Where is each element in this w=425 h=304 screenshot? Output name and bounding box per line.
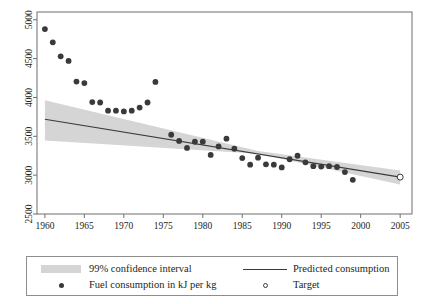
data-point bbox=[192, 139, 198, 145]
data-point bbox=[50, 39, 56, 45]
data-point bbox=[74, 79, 80, 85]
data-point bbox=[129, 108, 135, 114]
legend-label-target: Target bbox=[291, 279, 319, 291]
data-point bbox=[310, 163, 316, 169]
data-point bbox=[342, 169, 348, 175]
legend-item-target: Target bbox=[239, 277, 399, 293]
data-point bbox=[295, 153, 301, 159]
scatter-plot: 1960196519701975198019851990199520002005… bbox=[0, 0, 425, 248]
data-point bbox=[326, 163, 332, 169]
legend-item-fuel-consumption: Fuel consumption in kJ per kg bbox=[35, 277, 235, 293]
x-tick-label: 2000 bbox=[351, 221, 370, 231]
y-tick-label: 4000 bbox=[24, 88, 34, 107]
data-point bbox=[200, 139, 206, 145]
figure-container: 1960196519701975198019851990199520002005… bbox=[0, 0, 425, 304]
data-point bbox=[113, 108, 119, 114]
target-marker bbox=[397, 174, 403, 180]
data-point bbox=[89, 99, 95, 105]
data-point bbox=[271, 162, 277, 168]
legend-item-confidence-interval: 99% confidence interval bbox=[35, 261, 235, 277]
y-tick-label: 2500 bbox=[24, 204, 34, 223]
y-tick-label: 3500 bbox=[24, 127, 34, 146]
data-point bbox=[350, 177, 356, 183]
x-tick-label: 1975 bbox=[154, 221, 173, 231]
plot-area: 1960196519701975198019851990199520002005… bbox=[0, 0, 425, 248]
x-tick-label: 1965 bbox=[75, 221, 94, 231]
x-tick-label: 1980 bbox=[193, 221, 212, 231]
data-point bbox=[208, 152, 214, 158]
x-tick-label: 1960 bbox=[35, 221, 54, 231]
series-target bbox=[397, 174, 403, 180]
confidence-band-swatch-icon bbox=[35, 265, 87, 273]
data-point bbox=[145, 100, 151, 106]
data-point bbox=[216, 144, 222, 150]
predicted-line-swatch-icon bbox=[239, 269, 291, 270]
data-point bbox=[42, 26, 48, 32]
y-tick-label: 5000 bbox=[24, 10, 34, 29]
data-point bbox=[176, 138, 182, 144]
open-circle-marker-icon bbox=[239, 283, 291, 288]
y-tick-label: 3000 bbox=[24, 165, 34, 184]
prediction-line bbox=[45, 119, 400, 177]
data-point bbox=[153, 79, 159, 85]
data-point bbox=[105, 108, 111, 114]
legend-label-confidence-interval: 99% confidence interval bbox=[87, 263, 192, 275]
data-point bbox=[81, 80, 87, 86]
x-tick-label: 1985 bbox=[233, 221, 252, 231]
x-tick-label: 1995 bbox=[312, 221, 331, 231]
data-point bbox=[263, 161, 269, 167]
x-tick-label: 2005 bbox=[391, 221, 410, 231]
data-point bbox=[66, 58, 72, 64]
data-point bbox=[168, 132, 174, 138]
data-point bbox=[247, 162, 253, 168]
y-tick-label: 4500 bbox=[24, 49, 34, 68]
x-tick-label: 1990 bbox=[272, 221, 291, 231]
legend-label-fuel-consumption: Fuel consumption in kJ per kg bbox=[87, 279, 216, 291]
data-point bbox=[137, 105, 143, 111]
filled-circle-marker-icon bbox=[35, 283, 87, 288]
data-point bbox=[303, 159, 309, 165]
data-point bbox=[287, 156, 293, 162]
data-point bbox=[231, 146, 237, 152]
y-axis: 250030003500400045005000 bbox=[24, 10, 37, 223]
data-point bbox=[334, 164, 340, 170]
x-axis: 1960196519701975198019851990199520002005 bbox=[35, 214, 410, 231]
data-point bbox=[255, 155, 261, 161]
data-point bbox=[239, 155, 245, 161]
legend-item-predicted-consumption: Predicted consumption bbox=[239, 261, 399, 277]
legend-label-predicted-consumption: Predicted consumption bbox=[291, 263, 390, 275]
data-point bbox=[184, 145, 190, 151]
data-point bbox=[318, 164, 324, 170]
data-point bbox=[279, 164, 285, 170]
data-point bbox=[224, 136, 230, 142]
data-point bbox=[121, 109, 127, 115]
chart-legend: 99% confidence interval Predicted consum… bbox=[26, 256, 398, 296]
data-point bbox=[97, 100, 103, 106]
data-point bbox=[58, 53, 64, 59]
x-tick-label: 1970 bbox=[114, 221, 133, 231]
